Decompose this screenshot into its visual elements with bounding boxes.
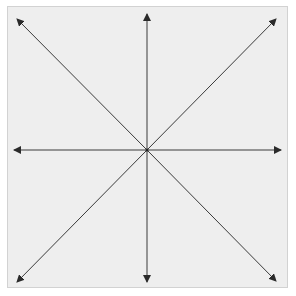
radial-arrows-diagram [0,0,296,296]
arrow-north-west [17,19,147,150]
arrow-south-east [147,150,276,281]
arrow-south-west [17,150,147,282]
arrow-north-east [147,19,276,150]
center-point [146,149,149,152]
